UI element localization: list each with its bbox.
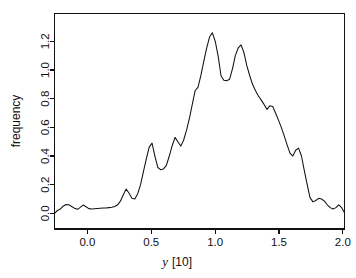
y-axis-tick-labels: 0.00.20.40.60.81.01.2 — [39, 33, 51, 221]
chart-figure: 0.00.51.01.52.0 0.00.20.40.60.81.01.2 y … — [0, 0, 356, 278]
frequency-density-plot: 0.00.51.01.52.0 0.00.20.40.60.81.01.2 y … — [0, 0, 356, 278]
x-axis-title-symbol: y — [160, 254, 168, 269]
y-tick-label: 0.4 — [39, 147, 51, 164]
y-axis-ticks — [50, 41, 55, 213]
y-tick-label: 0.2 — [39, 177, 51, 193]
x-axis-tick-labels: 0.00.51.01.52.0 — [79, 236, 350, 248]
frequency-curve — [55, 33, 345, 214]
y-tick-label: 0.0 — [39, 205, 51, 221]
y-tick-label: 0.6 — [39, 119, 51, 135]
x-tick-label: 1.5 — [271, 236, 287, 248]
plot-frame — [55, 14, 345, 230]
x-tick-label: 2.0 — [335, 236, 351, 248]
x-tick-label: 0.5 — [143, 236, 159, 248]
x-axis-title-unit: [10] — [172, 255, 192, 269]
y-tick-label: 0.8 — [39, 91, 51, 107]
x-tick-label: 0.0 — [79, 236, 95, 248]
y-tick-label: 1.0 — [39, 62, 51, 78]
x-axis-ticks — [87, 229, 342, 234]
y-axis-title: frequency — [9, 95, 23, 148]
x-tick-label: 1.0 — [207, 236, 223, 248]
x-axis-title: y [10] — [160, 254, 192, 269]
y-tick-label: 1.2 — [39, 33, 51, 49]
